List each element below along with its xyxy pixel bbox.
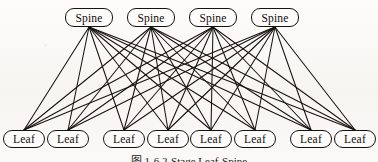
- edge-spine-4-to-leaf-7: [275, 27, 311, 130]
- node-label: Leaf: [200, 133, 222, 145]
- edge-spine-3-to-leaf-7: [213, 27, 311, 130]
- node-leaf-8[interactable]: Leaf: [334, 130, 376, 148]
- figure-caption: 图 1-6 2-Stage Leaf-Spine: [0, 152, 378, 162]
- node-label: Leaf: [244, 133, 266, 145]
- node-leaf-7[interactable]: Leaf: [290, 130, 332, 148]
- edge-spine-1-to-leaf-2: [68, 27, 89, 130]
- node-label: Leaf: [13, 133, 35, 145]
- node-spine-1[interactable]: Spine: [65, 8, 113, 27]
- node-leaf-6[interactable]: Leaf: [234, 130, 276, 148]
- node-label: Spine: [137, 12, 164, 24]
- node-leaf-5[interactable]: Leaf: [190, 130, 232, 148]
- edge-spine-1-to-leaf-1: [24, 27, 89, 130]
- node-label: Leaf: [344, 133, 366, 145]
- node-label: Spine: [199, 12, 226, 24]
- edge-spine-2-to-leaf-6: [151, 27, 255, 130]
- figure-leaf-spine-topology: SpineSpineSpineSpineLeafLeafLeafLeafLeaf…: [0, 0, 378, 162]
- node-leaf-4[interactable]: Leaf: [147, 130, 189, 148]
- edge-spine-3-to-leaf-2: [68, 27, 213, 130]
- node-label: Leaf: [300, 133, 322, 145]
- edge-spine-3-to-leaf-5: [211, 27, 213, 130]
- node-label: Spine: [75, 12, 102, 24]
- edge-spine-2-to-leaf-1: [24, 27, 151, 130]
- node-label: Spine: [261, 12, 288, 24]
- edge-spine-4-to-leaf-2: [68, 27, 275, 130]
- node-label: Leaf: [57, 133, 79, 145]
- node-label: Leaf: [157, 133, 179, 145]
- node-leaf-2[interactable]: Leaf: [47, 130, 89, 148]
- edge-spine-2-to-leaf-2: [68, 27, 151, 130]
- node-spine-2[interactable]: Spine: [127, 8, 175, 27]
- node-spine-3[interactable]: Spine: [189, 8, 237, 27]
- node-leaf-3[interactable]: Leaf: [103, 130, 145, 148]
- node-label: Leaf: [113, 133, 135, 145]
- node-spine-4[interactable]: Spine: [251, 8, 299, 27]
- node-leaf-1[interactable]: Leaf: [3, 130, 45, 148]
- edge-spine-4-to-leaf-1: [24, 27, 275, 130]
